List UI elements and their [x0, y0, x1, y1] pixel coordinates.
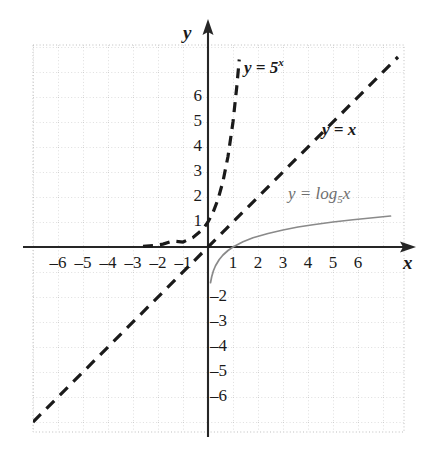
- x-tick-label: –5: [69, 253, 97, 273]
- x-tick-label: 1: [219, 253, 247, 273]
- x-tick-label: 6: [344, 253, 372, 273]
- coordinate-plane-figure: y x –6–5–4–3–2–1123456 654321–2–3–4–5–6 …: [0, 0, 438, 449]
- function-graph-svg: [0, 0, 438, 449]
- x-tick-label: –6: [44, 253, 72, 273]
- x-axis-label: x: [403, 252, 413, 274]
- y-tick-label: –5: [210, 361, 240, 381]
- annotation-exponential-exponent: x: [278, 56, 284, 68]
- x-tick-label: 5: [319, 253, 347, 273]
- annotation-logarithm: y = log5x: [288, 184, 350, 205]
- x-tick-label: 3: [269, 253, 297, 273]
- annotation-exponential: y = 5x: [244, 56, 284, 78]
- y-tick-label: –6: [210, 386, 240, 406]
- y-tick-label: 2: [176, 186, 202, 206]
- annotation-exponential-base: y = 5: [244, 58, 278, 77]
- x-tick-label: –2: [144, 253, 172, 273]
- annotation-logarithm-tail: x: [343, 184, 351, 203]
- y-tick-label: 6: [176, 86, 202, 106]
- x-tick-label: –3: [119, 253, 147, 273]
- y-tick-label: –4: [210, 336, 240, 356]
- y-tick-label: 4: [176, 136, 202, 156]
- y-tick-label: 3: [176, 161, 202, 181]
- x-tick-label: 4: [294, 253, 322, 273]
- y-tick-label: –2: [210, 286, 240, 306]
- y-tick-label: –3: [210, 311, 240, 331]
- y-tick-label: 5: [176, 111, 202, 131]
- annotation-identity: y = x: [322, 120, 356, 140]
- annotation-logarithm-base: y = log: [288, 184, 337, 203]
- x-tick-label: –1: [169, 253, 197, 273]
- x-tick-label: 2: [244, 253, 272, 273]
- y-axis-label: y: [183, 22, 191, 44]
- y-tick-label: 1: [176, 211, 202, 231]
- x-tick-label: –4: [94, 253, 122, 273]
